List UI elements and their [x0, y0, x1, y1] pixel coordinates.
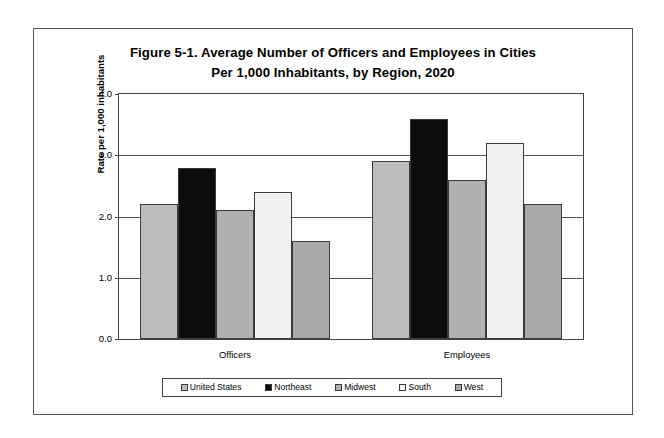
legend-item-united-states[interactable]: United States [181, 383, 242, 392]
bars-layer [119, 94, 583, 339]
plot-area: Rate per 1,000 inhabitants 0.01.02.03.04… [118, 93, 584, 340]
chart-title-line-2: Per 1,000 Inhabitants, by Region, 2020 [34, 63, 632, 83]
bar-employees-northeast [410, 119, 448, 340]
legend-label-south: South [408, 383, 430, 392]
x-axis-label-officers: Officers [219, 349, 251, 360]
legend-swatch-northeast [265, 384, 272, 391]
figure-frame: Figure 5-1. Average Number of Officers a… [33, 28, 633, 415]
y-tick-label-4.0: 4.0 [82, 89, 112, 99]
y-tick-label-3.0: 3.0 [82, 150, 112, 160]
legend-swatch-united-states [181, 384, 188, 391]
legend-label-midwest: Midwest [344, 383, 376, 392]
y-axis-title: Rate per 1,000 inhabitants [95, 14, 106, 214]
y-tick-label-2.0: 2.0 [82, 212, 112, 222]
legend-item-midwest[interactable]: Midwest [335, 383, 376, 392]
legend-item-south[interactable]: South [399, 383, 430, 392]
legend-item-northeast[interactable]: Northeast [265, 383, 311, 392]
chart-title: Figure 5-1. Average Number of Officers a… [34, 43, 632, 83]
x-axis-label-employees: Employees [444, 349, 490, 360]
legend-label-united-states: United States [190, 383, 242, 392]
bar-employees-united-states [372, 161, 410, 339]
legend-swatch-west [455, 384, 462, 391]
chart-legend: United StatesNortheastMidwestSouthWest [162, 378, 502, 397]
y-tick-label-0.0: 0.0 [82, 334, 112, 344]
y-tick-label-1.0: 1.0 [82, 273, 112, 283]
bar-employees-west [524, 204, 562, 339]
legend-item-west[interactable]: West [455, 383, 483, 392]
bar-officers-midwest [216, 210, 254, 339]
bar-employees-south [486, 143, 524, 339]
bar-officers-south [254, 192, 292, 339]
bar-officers-west [292, 241, 330, 339]
legend-label-northeast: Northeast [274, 383, 311, 392]
bar-employees-midwest [448, 180, 486, 339]
legend-label-west: West [464, 383, 483, 392]
legend-swatch-south [399, 384, 406, 391]
bar-officers-united-states [140, 204, 178, 339]
bar-officers-northeast [178, 168, 216, 340]
y-tick-mark-0.0 [115, 339, 119, 340]
chart-title-line-1: Figure 5-1. Average Number of Officers a… [34, 43, 632, 63]
legend-swatch-midwest [335, 384, 342, 391]
